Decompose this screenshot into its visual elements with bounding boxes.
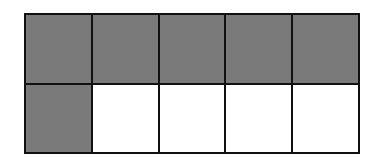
unshaded-cell: [293, 85, 358, 153]
fraction-grid: [24, 13, 360, 154]
unshaded-cell: [226, 85, 291, 153]
unshaded-cell: [160, 85, 225, 153]
shaded-cell: [26, 15, 91, 83]
shaded-cell: [160, 15, 225, 83]
shaded-cell: [226, 15, 291, 83]
shaded-cell: [26, 85, 91, 153]
shaded-cell: [293, 15, 358, 83]
unshaded-cell: [93, 85, 158, 153]
shaded-cell: [93, 15, 158, 83]
